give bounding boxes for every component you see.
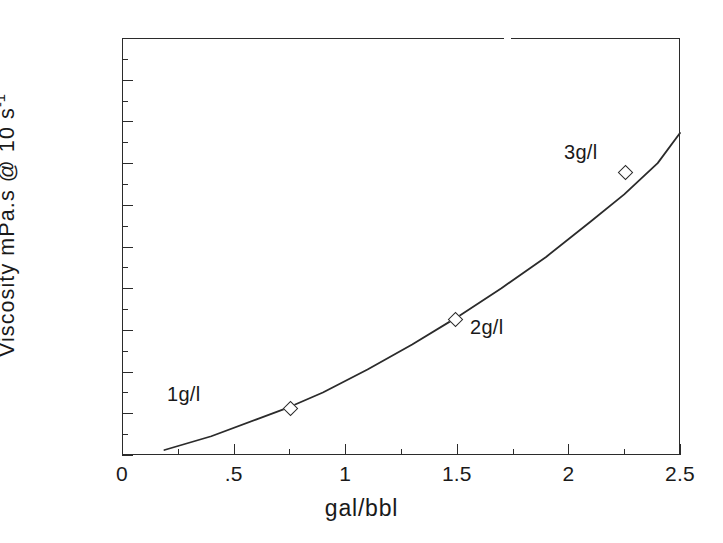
x-tick-label: .5: [225, 462, 243, 486]
x-tick-major: [680, 444, 681, 455]
x-tick-label: 1.5: [442, 462, 472, 486]
x-tick-label: 0: [116, 462, 128, 486]
data-point-label: 3g/l: [564, 141, 597, 164]
y-axis-title: Viscosity mPa.s @ 10 s-1: [0, 0, 20, 476]
data-point-label: 2g/l: [470, 316, 503, 339]
viscosity-curve: [122, 38, 680, 455]
x-tick-label: 2: [562, 462, 574, 486]
y-axis-title-exponent: -1: [0, 94, 8, 107]
x-axis-title: gal/bbl: [0, 495, 723, 522]
plot-area: 1g/l 2g/l 3g/l: [122, 38, 680, 455]
y-axis-title-text: Viscosity mPa.s @ 10 s: [0, 107, 19, 357]
y-tick-major: [122, 455, 133, 456]
chart-figure: Viscosity mPa.s @ 10 s-1 gal/bbl 1000 90…: [0, 0, 723, 543]
data-point-label: 1g/l: [167, 383, 200, 406]
x-tick-label: 1: [339, 462, 351, 486]
x-tick-label: 2.5: [665, 462, 695, 486]
